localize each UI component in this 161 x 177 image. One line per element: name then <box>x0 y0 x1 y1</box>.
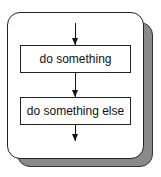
exit-arrow-icon <box>75 125 76 141</box>
step-label-2: do something else <box>27 104 124 118</box>
connector-arrow-icon <box>75 73 76 97</box>
step-box-2: do something else <box>20 97 131 125</box>
step-box-1: do something <box>20 45 131 73</box>
entry-arrow-icon <box>75 23 76 45</box>
step-label-1: do something <box>39 52 111 66</box>
